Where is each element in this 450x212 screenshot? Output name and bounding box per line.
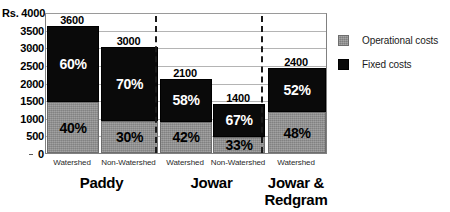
y-axis-tick-mark <box>29 136 33 137</box>
bar[interactable]: 67%33% <box>213 104 265 153</box>
y-axis-tick-mark <box>29 101 33 102</box>
group-separator <box>261 16 263 153</box>
bar-segment-operational-costs[interactable]: 40% <box>47 102 99 153</box>
legend-item[interactable]: Fixed costs <box>338 58 448 70</box>
bar-segment-fixed-costs[interactable]: 67% <box>213 104 265 137</box>
bar-segment-percent-label: 70% <box>116 77 143 91</box>
bar-total-label: 1400 <box>212 92 264 104</box>
y-axis-tick-mark <box>29 31 33 32</box>
bar[interactable]: 58%42% <box>160 79 212 153</box>
bar[interactable]: 70%30% <box>101 47 158 153</box>
bar-segment-percent-label: 52% <box>283 83 310 97</box>
x-axis-group-label: Jowar &Redgram <box>247 174 345 209</box>
bar-segment-percent-label: 67% <box>225 113 252 127</box>
bar-segment-fixed-costs[interactable]: 52% <box>268 68 326 112</box>
plot-area: 60%40%70%30%58%42%67%33%52%48% <box>45 13 327 154</box>
chart-legend: Operational costsFixed costs <box>338 34 448 82</box>
bar-total-label: 2100 <box>159 67 211 79</box>
bar[interactable]: 60%40% <box>47 26 99 153</box>
bar-segment-percent-label: 40% <box>59 121 86 135</box>
y-axis-tick-label: 500 <box>0 130 44 142</box>
y-axis-tick-label: 3500 <box>0 25 44 37</box>
x-axis-group-label-line: Jowar & <box>247 174 345 191</box>
x-axis-group-label-line: Redgram <box>247 191 345 208</box>
bar-segment-percent-label: 30% <box>116 130 143 144</box>
legend-item[interactable]: Operational costs <box>338 34 448 46</box>
y-axis-tick-mark <box>29 84 33 85</box>
legend-item-label: Fixed costs <box>362 59 411 70</box>
x-axis-category-label: Watershed <box>261 158 331 167</box>
bar-total-label: 3600 <box>46 14 98 26</box>
y-axis-tick-mark <box>29 154 33 155</box>
legend-swatch <box>338 35 349 46</box>
bar-segment-percent-label: 42% <box>172 130 199 144</box>
bar-segment-percent-label: 60% <box>59 57 86 71</box>
y-axis-tick-label: 3000 <box>0 42 44 54</box>
bar-segment-operational-costs[interactable]: 42% <box>160 122 212 153</box>
legend-swatch <box>338 59 349 70</box>
bar-total-label: 2400 <box>267 56 325 68</box>
legend-item-label: Operational costs <box>362 35 438 46</box>
y-axis-tick-mark <box>29 48 33 49</box>
bar-segment-fixed-costs[interactable]: 70% <box>101 47 158 121</box>
y-axis-tick-label: 2500 <box>0 60 44 72</box>
stacked-bar-chart: Rs. 4000 3500300025002000150010005000 60… <box>0 0 450 212</box>
bar-segment-percent-label: 33% <box>225 138 252 152</box>
bar[interactable]: 52%48% <box>268 68 326 153</box>
bar-segment-operational-costs[interactable]: 33% <box>213 137 265 153</box>
bar-segment-percent-label: 48% <box>283 126 310 140</box>
y-axis-tick-mark <box>29 119 33 120</box>
y-axis-tick-label: 2000 <box>0 78 44 90</box>
bar-total-label: 3000 <box>100 35 157 47</box>
bar-segment-fixed-costs[interactable]: 58% <box>160 79 212 122</box>
bar-segment-fixed-costs[interactable]: 60% <box>47 26 99 102</box>
y-axis-tick-label: 1500 <box>0 95 44 107</box>
bar-segment-operational-costs[interactable]: 30% <box>101 121 158 153</box>
bar-segment-operational-costs[interactable]: 48% <box>268 112 326 153</box>
y-axis-tick-mark <box>29 66 33 67</box>
y-axis-tick-label: 1000 <box>0 113 44 125</box>
y-axis-tick-label: 0 <box>0 148 44 160</box>
bar-segment-percent-label: 58% <box>172 93 199 107</box>
